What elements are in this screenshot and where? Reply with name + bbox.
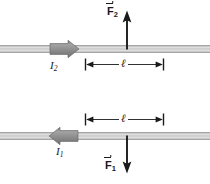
upper-force-label: F2 [107, 6, 118, 19]
lower-wire-group [0, 133, 210, 140]
lower-force-vector-symbol: F [105, 160, 112, 171]
upper-force-arrow [123, 11, 132, 50]
lower-force-arrow [123, 136, 132, 174]
upper-wire-group [0, 46, 210, 53]
lower-length-label: ℓ [119, 113, 128, 124]
upper-current-arrow [50, 40, 79, 57]
upper-length-label: ℓ [119, 58, 128, 69]
physics-diagram-parallel-wires: F2 I2 ℓ ℓ I1 F1 [0, 0, 210, 184]
lower-current-arrow [49, 127, 78, 144]
upper-current-label: I2 [50, 60, 57, 73]
lower-current-label: I1 [56, 146, 63, 159]
lower-force-label: F1 [105, 160, 116, 173]
upper-force-vector-symbol: F [107, 6, 114, 17]
